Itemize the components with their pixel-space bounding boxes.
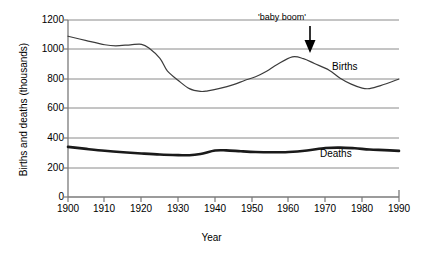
x-tick-1920: 1920 — [124, 203, 158, 214]
x-tick-1950: 1950 — [235, 203, 269, 214]
x-axis-ticks — [68, 197, 399, 202]
series-label-births: Births — [332, 61, 358, 72]
line-chart: Births and deaths (thousands) 1200 1000 … — [0, 0, 423, 253]
plot-area — [0, 0, 423, 253]
x-tick-1960: 1960 — [271, 203, 305, 214]
x-tick-1980: 1980 — [345, 203, 379, 214]
x-tick-1990: 1990 — [382, 203, 416, 214]
series-label-deaths: Deaths — [320, 148, 352, 159]
x-tick-1930: 1930 — [161, 203, 195, 214]
baby-boom-annotation: 'baby boom' — [258, 12, 306, 22]
x-tick-1970: 1970 — [308, 203, 342, 214]
x-tick-1900: 1900 — [51, 203, 85, 214]
gridlines — [68, 20, 399, 168]
y-axis-ticks — [63, 20, 68, 197]
x-axis-title: Year — [0, 232, 423, 243]
x-tick-1940: 1940 — [198, 203, 232, 214]
x-tick-1910: 1910 — [87, 203, 121, 214]
